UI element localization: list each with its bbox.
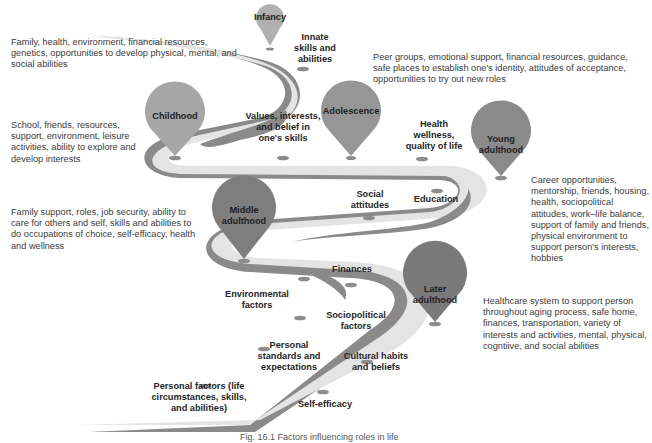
factor-social-attitudes: Social attitudes [348, 189, 392, 211]
factor-innate-skills: Innate skills and abilities [290, 32, 340, 65]
stage-label-infancy: Infancy [249, 12, 291, 23]
pin-adolescence [321, 80, 381, 156]
stage-label-later-adulthood: Later adulthood [405, 284, 465, 306]
factor-education: Education [407, 194, 465, 205]
stage-label-adolescence: Adolescence [316, 106, 386, 117]
stage-description-infancy: Family, health, environment, financial r… [11, 37, 243, 71]
factor-sociopolitical: Sociopolitical factors [321, 310, 391, 332]
stage-label-middle-adulthood: Middle adulthood [214, 205, 274, 227]
factor-self-efficacy: Self-efficacy [290, 399, 360, 410]
stage-label-young-adulthood: Young adulthood [471, 134, 531, 156]
stage-description-middle-adulthood: Family support, roles, job security, abi… [11, 207, 201, 252]
factor-personal-factors: Personal factors (life circumstances, sk… [148, 381, 250, 414]
factor-personal-standards: Personal standards and expectations [253, 340, 325, 373]
figure-caption: Fig. 16.1 Factors influencing roles in l… [240, 432, 399, 442]
stage-description-later-adulthood: Healthcare system to support person thro… [483, 296, 648, 352]
factor-finances: Finances [327, 264, 377, 275]
factor-values-interests: Values, interests, and belief in one's s… [245, 111, 321, 144]
factor-environmental: Environmental factors [222, 289, 292, 311]
stage-label-childhood: Childhood [145, 111, 205, 122]
stage-description-childhood: School, friends, resources, support, env… [11, 120, 141, 165]
factor-health-wellness: Health wellness, quality of life [402, 119, 466, 152]
stage-description-young-adulthood: Career opportunities, mentorship, friend… [531, 175, 652, 265]
pin-infancy [256, 4, 284, 46]
factor-cultural-habits: Cultural habits and beliefs [338, 351, 414, 373]
stage-description-adolescence: Peer groups, emotional support, financia… [373, 52, 628, 86]
